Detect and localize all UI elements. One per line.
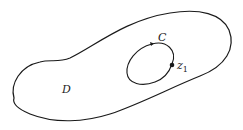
region-label-d: D [62,84,71,95]
diagram-canvas [0,0,243,130]
orientation-arrow-icon [150,42,154,46]
point-label-z1: z1 [177,60,188,74]
diagram: D C z1 [0,0,243,130]
point-label-subscript: 1 [183,65,188,74]
contour-c [127,43,174,84]
contour-label-c: C [158,32,166,43]
region-d-boundary [13,11,231,120]
point-z1-dot [170,63,175,68]
